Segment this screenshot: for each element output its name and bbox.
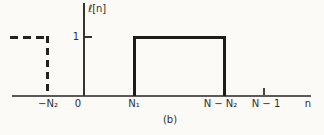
figure-signal-pulse-plot: ℓ[n] 1 −N₂ 0 N₁ N − N₂ N − 1 n (b)	[0, 0, 324, 135]
dashed-pulse-falling-edge	[46, 36, 49, 95]
x-axis-label-n: n	[299, 98, 317, 109]
y-tick-label-1: 1	[64, 31, 79, 42]
y-axis-line	[83, 3, 85, 96]
x-tick-label-neg-n2: −N₂	[30, 98, 66, 109]
x-tick-label-n-minus-1: N − 1	[242, 98, 290, 109]
y-axis-tick-at-1	[85, 36, 92, 38]
dashed-pulse-top-segment	[10, 36, 49, 39]
x-tick-label-n-minus-n2: N − N₂	[192, 98, 249, 109]
x-axis-tick-at-n-minus-1	[263, 88, 265, 95]
y-axis-label: ℓ[n]	[88, 3, 106, 14]
x-tick-label-zero: 0	[70, 98, 86, 109]
subfigure-caption: (b)	[148, 114, 192, 125]
solid-pulse-rectangle	[133, 36, 226, 96]
x-tick-label-n1: N₁	[120, 98, 148, 109]
